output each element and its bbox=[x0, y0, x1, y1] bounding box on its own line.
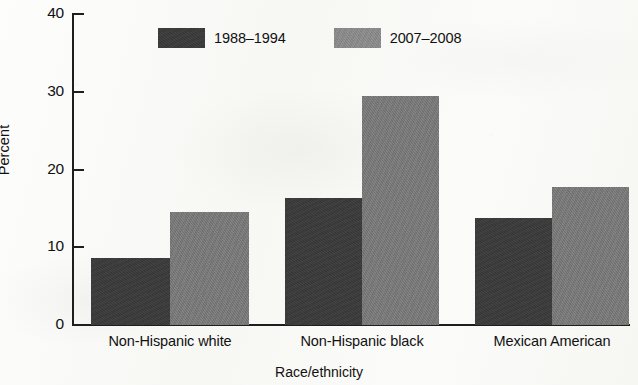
bar-chart: 010203040 Percent Non-Hispanic whiteNon-… bbox=[0, 0, 638, 385]
legend-swatch-icon bbox=[334, 28, 381, 48]
x-axis-category-label: Non-Hispanic white bbox=[60, 333, 280, 349]
legend-item: 1988–1994 bbox=[158, 28, 286, 48]
bar bbox=[552, 187, 629, 325]
y-axis-tick-label: 30 bbox=[24, 82, 64, 100]
legend-label: 2007–2008 bbox=[390, 30, 462, 46]
legend-label: 1988–1994 bbox=[214, 30, 286, 46]
bar bbox=[170, 212, 249, 326]
bar bbox=[362, 96, 439, 325]
x-axis-title: Race/ethnicity bbox=[0, 364, 638, 380]
bar bbox=[285, 198, 362, 326]
y-axis-tick-label: 20 bbox=[24, 160, 64, 178]
plot-area bbox=[73, 14, 629, 325]
chart-legend: 1988–19942007–2008 bbox=[158, 28, 461, 48]
y-axis-tick-label: 40 bbox=[24, 4, 64, 22]
bar bbox=[91, 258, 170, 325]
legend-item: 2007–2008 bbox=[334, 28, 462, 48]
y-axis-tick-label: 10 bbox=[24, 237, 64, 255]
x-axis-category-label: Mexican American bbox=[442, 333, 638, 349]
y-axis-title: Percent bbox=[0, 90, 12, 210]
bar bbox=[475, 218, 552, 325]
legend-swatch-icon bbox=[158, 28, 205, 48]
y-axis-tick-label: 0 bbox=[24, 315, 64, 333]
x-axis-category-label: Non-Hispanic black bbox=[252, 333, 472, 349]
